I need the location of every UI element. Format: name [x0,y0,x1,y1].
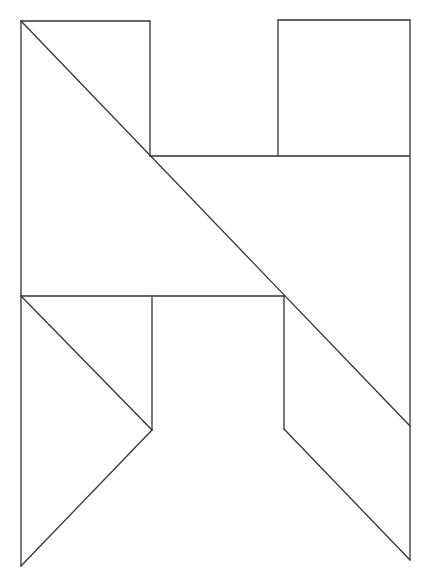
right-leg-diagonal-lower [284,429,410,560]
left-leg-diagonal-lower [21,430,152,566]
long-diagonal [21,21,410,426]
left-leg-diagonal-upper [21,296,152,430]
tangram-diagram [0,0,429,576]
